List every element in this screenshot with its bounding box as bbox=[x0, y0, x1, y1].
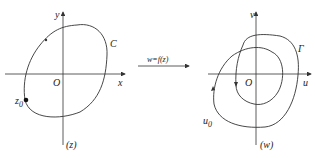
v-axis-label: v bbox=[250, 9, 255, 20]
y-axis-label: y bbox=[54, 9, 60, 20]
direction-dot bbox=[45, 39, 47, 41]
direction-arrow-inner bbox=[234, 82, 238, 87]
diagram-canvas: y x O C z0 (z) w=f(z) v u O Γ u0 (w) bbox=[0, 0, 315, 158]
z0-label: z0 bbox=[14, 95, 23, 109]
curve-gamma-inner bbox=[236, 45, 283, 105]
complex-mapping-diagram: y x O C z0 (z) w=f(z) v u O Γ u0 (w) bbox=[0, 0, 315, 158]
origin-label: O bbox=[53, 77, 60, 88]
mapping-label: w=f(z) bbox=[147, 55, 169, 64]
mapping-arrow: w=f(z) bbox=[138, 55, 189, 66]
w-origin-label: O bbox=[245, 77, 252, 88]
point-z0 bbox=[24, 98, 29, 103]
z-plane: y x O C z0 (z) bbox=[5, 9, 125, 151]
u0-label: u0 bbox=[203, 115, 212, 129]
curve-gamma-label: Γ bbox=[297, 43, 304, 54]
w-plane-label: (w) bbox=[260, 139, 274, 151]
u-axis-label: u bbox=[303, 77, 308, 88]
w-plane: v u O Γ u0 (w) bbox=[203, 9, 311, 151]
curve-c-label: C bbox=[110, 38, 117, 49]
curve-c bbox=[24, 25, 107, 117]
x-axis-label: x bbox=[117, 77, 123, 88]
z-plane-label: (z) bbox=[66, 139, 77, 151]
